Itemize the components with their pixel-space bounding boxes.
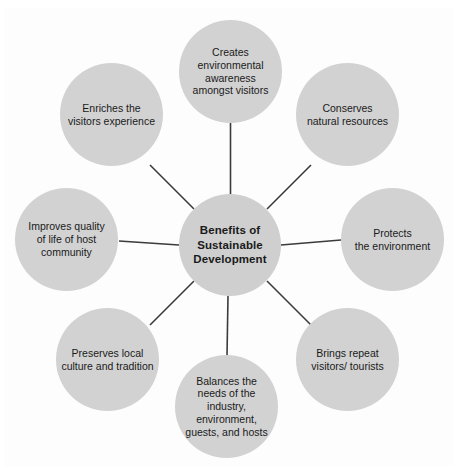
node-protects-the-environment[interactable]: Protects the environment: [341, 188, 444, 291]
node-label-brings-repeat-visitors: Brings repeat visitors/ tourists: [307, 347, 387, 373]
node-balances-the-needs[interactable]: Balances the needs of the industry, envi…: [175, 355, 278, 458]
node-label-preserves-local-culture: Preserves local culture and tradition: [57, 347, 157, 373]
connector-west: [119, 241, 179, 245]
radial-diagram: Benefits of Sustainable Development Crea…: [0, 0, 458, 471]
node-label-creates-environmental-awareness: Creates environmental awareness amongst …: [189, 46, 273, 97]
connector-northwest: [150, 165, 194, 209]
connector-south: [227, 296, 228, 356]
node-label-balances-the-needs: Balances the needs of the industry, envi…: [175, 375, 278, 439]
node-conserves-natural-resources[interactable]: Conserves natural resources: [296, 63, 399, 166]
connector-southwest: [150, 281, 194, 325]
node-label-protects-the-environment: Protects the environment: [351, 227, 434, 253]
center-node-label: Benefits of Sustainable Development: [189, 223, 270, 268]
node-brings-repeat-visitors[interactable]: Brings repeat visitors/ tourists: [296, 308, 399, 411]
node-enriches-visitors-experience[interactable]: Enriches the visitors experience: [60, 63, 163, 166]
center-node-benefits[interactable]: Benefits of Sustainable Development: [179, 194, 281, 296]
node-label-enriches-visitors-experience: Enriches the visitors experience: [64, 102, 159, 128]
node-creates-environmental-awareness[interactable]: Creates environmental awareness amongst …: [179, 20, 282, 123]
node-label-conserves-natural-resources: Conserves natural resources: [303, 102, 392, 128]
connector-northeast: [267, 165, 311, 209]
node-label-improves-quality-of-life: Improves quality of life of host communi…: [24, 220, 108, 258]
connector-southeast: [267, 281, 311, 325]
node-preserves-local-culture[interactable]: Preserves local culture and tradition: [56, 308, 159, 411]
node-improves-quality-of-life[interactable]: Improves quality of life of host communi…: [15, 188, 118, 291]
connector-east: [281, 240, 341, 245]
